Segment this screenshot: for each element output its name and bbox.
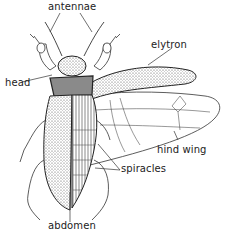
beetle-illustration [0,0,229,235]
label-head: head [5,78,30,88]
label-hind-wing: hind wing [157,145,207,155]
beetle-diagram: antennae elytron head hind wing spiracle… [0,0,229,235]
label-antennae: antennae [48,2,96,12]
label-elytron: elytron [151,40,187,50]
antennae [45,22,104,56]
abdomen-exposed [72,95,97,208]
head [58,56,86,76]
label-spiracles: spiracles [121,164,166,174]
left-elytron [44,95,72,210]
pronotum [50,76,93,96]
label-abdomen: abdomen [48,221,96,231]
